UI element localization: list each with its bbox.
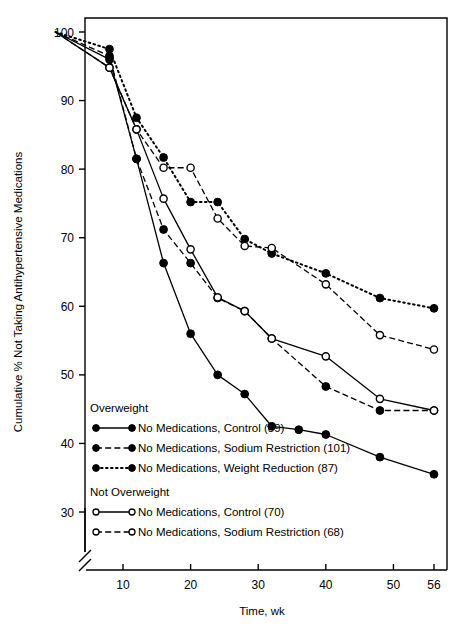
data-point — [187, 164, 194, 171]
y-tick-label: 70 — [61, 231, 75, 245]
data-point — [430, 346, 437, 353]
data-point — [430, 304, 438, 312]
data-point — [133, 114, 141, 122]
data-point — [214, 215, 221, 222]
legend-marker-open-circle-icon — [93, 529, 99, 535]
legend-marker-filled-circle-icon — [93, 465, 100, 472]
data-point — [376, 395, 383, 402]
data-point — [430, 407, 437, 414]
data-point — [241, 307, 248, 314]
legend-marker-filled-circle-icon — [93, 445, 100, 452]
data-point — [295, 426, 303, 434]
data-point — [106, 45, 114, 53]
legend-marker-open-circle-icon — [93, 509, 99, 515]
data-point — [187, 330, 195, 338]
data-point — [160, 195, 167, 202]
data-point — [160, 164, 167, 171]
data-point — [160, 154, 168, 162]
y-tick-label: 80 — [61, 163, 75, 177]
x-tick-label: 50 — [387, 578, 401, 592]
x-tick-label: 20 — [184, 578, 198, 592]
legend-item-label: No Medications, Sodium Restriction (68) — [138, 526, 344, 538]
data-point — [133, 155, 141, 163]
legend-marker-filled-circle-icon — [93, 425, 100, 432]
legend-marker-open-circle-icon — [129, 529, 135, 535]
data-point — [241, 390, 249, 398]
y-axis-title: Cumulative % Not Taking Antihypertensive… — [12, 152, 24, 433]
data-point — [214, 294, 221, 301]
legend-marker-filled-circle-icon — [129, 445, 136, 452]
data-point — [106, 64, 113, 71]
legend-marker-filled-circle-icon — [129, 465, 136, 472]
legend-item-label: No Medications, Weight Reduction (87) — [138, 462, 338, 474]
survival-curve-chart: 30405060708090100 102030405056 Overweigh… — [0, 0, 462, 628]
data-point — [322, 281, 329, 288]
data-point — [133, 126, 140, 133]
y-tick-label: 60 — [61, 300, 75, 314]
legend-marker-open-circle-icon — [129, 509, 135, 515]
y-tick-label: 90 — [61, 94, 75, 108]
y-tick-label: 40 — [61, 437, 75, 451]
data-point — [187, 198, 195, 206]
y-tick-label: 30 — [61, 506, 75, 520]
data-point — [268, 335, 275, 342]
data-point — [376, 294, 384, 302]
x-axis-title: Time, wk — [239, 605, 285, 617]
data-point — [322, 431, 330, 439]
data-point — [322, 269, 330, 277]
data-point — [160, 226, 168, 234]
data-point — [187, 259, 195, 267]
data-point — [241, 242, 248, 249]
data-point — [376, 407, 384, 415]
x-tick-label: 40 — [319, 578, 333, 592]
data-point — [376, 331, 383, 338]
legend-item-label: No Medications, Control (89) — [138, 422, 285, 434]
data-point — [214, 198, 222, 206]
legend-marker-filled-circle-icon — [129, 425, 136, 432]
data-point — [214, 371, 222, 379]
x-tick-label: 30 — [252, 578, 266, 592]
data-point — [430, 470, 438, 478]
x-tick-label: 56 — [427, 578, 441, 592]
legend-group-heading: Not Overweight — [90, 486, 170, 498]
data-point — [187, 246, 194, 253]
data-point — [268, 244, 275, 251]
data-point — [376, 453, 384, 461]
data-point — [322, 383, 330, 391]
legend-item-label: No Medications, Control (70) — [138, 506, 285, 518]
x-tick-label: 10 — [116, 578, 130, 592]
chart-figure: 30405060708090100 102030405056 Overweigh… — [0, 0, 462, 628]
y-tick-label: 50 — [61, 368, 75, 382]
legend-group-heading: Overweight — [90, 402, 149, 414]
data-point — [160, 259, 168, 267]
data-point — [322, 353, 329, 360]
legend-item-label: No Medications, Sodium Restriction (101) — [138, 442, 350, 454]
